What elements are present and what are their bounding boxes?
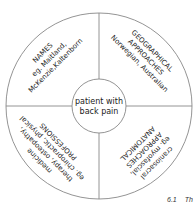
approaches-circle-diagram: patient with back pain NAMES eg. Maitlan… (0, 0, 193, 208)
figure-caption: 6.1Th (167, 196, 193, 203)
figure-caption-title: Th (185, 196, 193, 203)
center-label-line1: patient with (75, 97, 123, 106)
center-circle (72, 79, 126, 133)
center-label-line2: back pain (80, 107, 119, 116)
figure-number: 6.1 (167, 196, 177, 203)
